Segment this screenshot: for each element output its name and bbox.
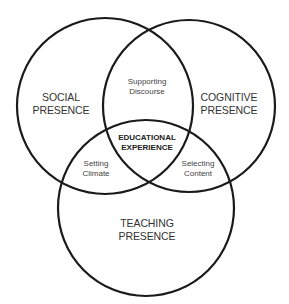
teaching-label-line1: TEACHING (119, 217, 176, 230)
setting-climate-line2: Climate (82, 169, 109, 179)
cognitive-presence-label: COGNITIVE PRESENCE (201, 91, 258, 117)
selecting-content-line2: Content (182, 169, 215, 179)
social-presence-label: SOCIAL PRESENCE (33, 91, 90, 117)
cognitive-label-line1: COGNITIVE (201, 91, 258, 104)
supporting-discourse-line2: Discourse (128, 87, 167, 97)
educational-experience-line2: EXPERIENCE (118, 143, 176, 153)
social-label-line2: PRESENCE (33, 104, 90, 117)
setting-climate-line1: Setting (82, 159, 109, 169)
educational-experience-label: EDUCATIONAL EXPERIENCE (118, 133, 176, 153)
selecting-content-line1: Selecting (182, 159, 215, 169)
teaching-presence-label: TEACHING PRESENCE (119, 217, 176, 243)
setting-climate-label: Setting Climate (82, 159, 109, 179)
supporting-discourse-label: Supporting Discourse (128, 77, 167, 97)
cognitive-label-line2: PRESENCE (201, 104, 258, 117)
educational-experience-line1: EDUCATIONAL (118, 133, 176, 143)
social-label-line1: SOCIAL (33, 91, 90, 104)
teaching-label-line2: PRESENCE (119, 230, 176, 243)
selecting-content-label: Selecting Content (182, 159, 215, 179)
supporting-discourse-line1: Supporting (128, 77, 167, 87)
